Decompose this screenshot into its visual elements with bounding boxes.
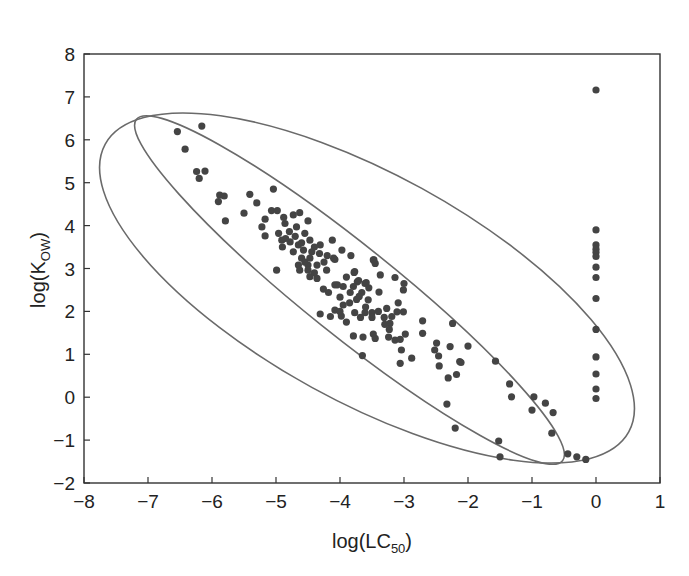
data-point <box>359 352 366 359</box>
data-point <box>306 237 313 244</box>
data-point <box>395 299 402 306</box>
data-point <box>320 259 327 266</box>
data-point <box>398 346 405 353</box>
data-point <box>330 255 337 262</box>
data-point <box>592 353 599 360</box>
data-point <box>301 230 308 237</box>
y-tick-label: 4 <box>64 216 75 237</box>
data-point <box>573 453 580 460</box>
data-point <box>496 453 503 460</box>
y-tick-label: 6 <box>64 130 75 151</box>
data-point <box>447 343 454 350</box>
data-point <box>281 220 288 227</box>
data-point <box>582 456 589 463</box>
data-point <box>592 295 599 302</box>
data-point <box>397 360 404 367</box>
y-tick-label: 0 <box>64 387 75 408</box>
data-point <box>343 319 350 326</box>
data-point <box>317 310 324 317</box>
data-point <box>443 401 450 408</box>
y-tick-label: 8 <box>64 44 75 65</box>
data-point <box>592 395 599 402</box>
data-point <box>196 175 203 182</box>
data-point <box>464 343 471 350</box>
x-tick-label: −2 <box>457 491 479 512</box>
data-point <box>377 271 384 278</box>
x-tick-label: 1 <box>655 491 666 512</box>
x-tick-label: −8 <box>73 491 95 512</box>
data-point <box>293 223 300 230</box>
data-point <box>402 331 409 338</box>
data-point <box>564 450 571 457</box>
data-point <box>357 314 364 321</box>
data-point <box>375 308 382 315</box>
data-point <box>453 371 460 378</box>
data-point <box>508 393 515 400</box>
data-point <box>388 313 395 320</box>
data-point <box>338 247 345 254</box>
data-point <box>391 274 398 281</box>
data-point <box>381 314 388 321</box>
data-point <box>273 267 280 274</box>
y-axis-label: log(KOW) <box>27 232 53 308</box>
data-point <box>286 228 293 235</box>
data-point <box>592 86 599 93</box>
data-point <box>323 267 330 274</box>
data-point <box>296 267 303 274</box>
data-point <box>340 283 347 290</box>
data-point <box>383 305 390 312</box>
data-point <box>350 332 357 339</box>
data-point <box>548 430 555 437</box>
y-tick-label: 3 <box>64 259 75 280</box>
y-tick-label: 2 <box>64 301 75 322</box>
data-point <box>198 123 205 130</box>
data-point <box>445 374 452 381</box>
y-tick-label: 5 <box>64 173 75 194</box>
data-point <box>400 280 407 287</box>
data-point <box>221 192 228 199</box>
data-point <box>240 210 247 217</box>
x-axis-label: log(LC50) <box>332 530 412 556</box>
data-point <box>356 293 363 300</box>
data-point <box>528 407 535 414</box>
data-point <box>408 355 415 362</box>
data-point <box>282 235 289 242</box>
data-point <box>290 211 297 218</box>
x-tick-label: −4 <box>329 491 351 512</box>
data-point <box>174 128 181 135</box>
y-tick-label: 1 <box>64 344 75 365</box>
data-point <box>336 294 343 301</box>
data-point <box>542 400 549 407</box>
data-point <box>347 252 354 259</box>
x-axis-ticks: −8−7−6−5−4−3−2−101 <box>73 477 665 512</box>
data-point <box>592 274 599 281</box>
data-point <box>362 304 369 311</box>
data-point <box>433 340 440 347</box>
data-point <box>506 380 513 387</box>
x-tick-label: −5 <box>265 491 287 512</box>
data-point <box>592 370 599 377</box>
data-point <box>182 146 189 153</box>
data-point <box>346 299 353 306</box>
data-point <box>436 362 443 369</box>
data-point <box>381 321 388 328</box>
data-point <box>300 247 307 254</box>
data-point <box>343 274 350 281</box>
y-tick-label: −1 <box>53 430 75 451</box>
data-point <box>452 425 459 432</box>
data-point <box>592 226 599 233</box>
data-point <box>201 168 208 175</box>
data-point <box>253 199 260 206</box>
data-point <box>222 217 229 224</box>
x-tick-label: −6 <box>201 491 223 512</box>
data-point <box>435 352 442 359</box>
data-point <box>246 191 253 198</box>
data-point <box>215 198 222 205</box>
data-point <box>311 269 318 276</box>
data-point <box>368 314 375 321</box>
data-point <box>313 262 320 269</box>
data-point <box>431 346 438 353</box>
data-point <box>372 260 379 267</box>
data-point <box>316 250 323 257</box>
x-tick-label: −3 <box>393 491 415 512</box>
